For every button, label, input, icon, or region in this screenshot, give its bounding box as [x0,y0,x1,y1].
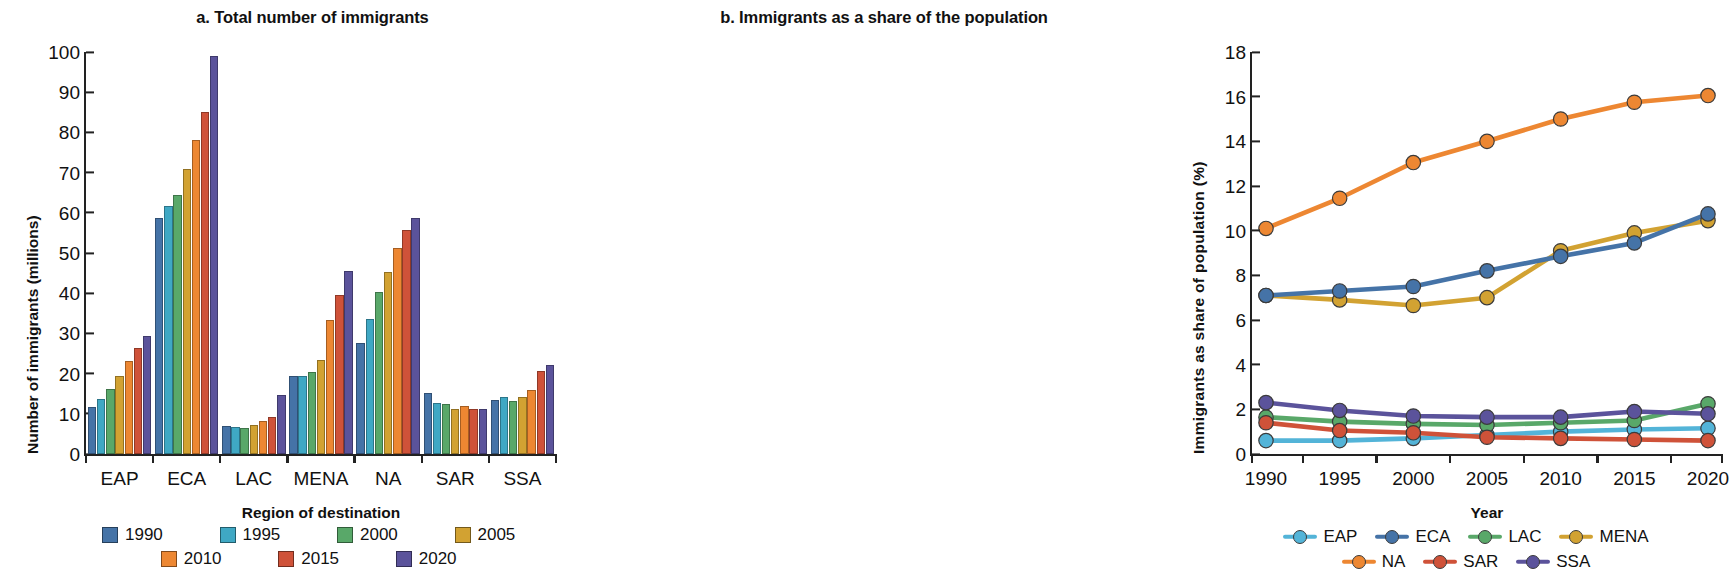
bar-x-tick-mark [421,454,423,463]
line-y-tick-mark [1252,319,1260,321]
bar-ssa-1990 [491,400,499,454]
bar-legend-label: 2015 [301,549,339,569]
bar-group-lac [220,52,287,454]
line-legend-label: EAP [1323,527,1357,547]
bar-y-tick: 0 [69,445,86,464]
line-x-label-2005: 2005 [1466,468,1508,490]
bar-ssa-2015 [537,371,545,454]
line-y-tick-mark [1252,185,1260,187]
line-y-tick-mark [1252,230,1260,232]
bar-legend-item-2015[interactable]: 2015 [260,549,378,569]
line-x-tick-mark [1596,454,1598,463]
bar-legend-item-2010[interactable]: 2010 [143,549,261,569]
legend-dot-icon [1569,530,1583,544]
line-marker-SAR-2015 [1627,432,1641,446]
line-series-svg [1252,52,1722,454]
bar-legend-item-1995[interactable]: 1995 [202,525,320,545]
line-marker-NA-2015 [1627,95,1641,109]
line-y-tick: 14 [1225,132,1252,151]
legend-line-marker-icon [1375,530,1409,544]
bar-na-2010 [393,248,401,454]
legend-dot-icon [1293,530,1307,544]
line-legend-item-LAC[interactable]: LAC [1468,527,1541,547]
bar-group-eap [86,52,153,454]
line-marker-NA-2010 [1553,112,1567,126]
bar-na-2015 [402,230,410,454]
line-marker-MENA-2005 [1480,290,1494,304]
bar-y-tick: 60 [59,203,86,222]
bar-legend-item-2020[interactable]: 2020 [378,549,496,569]
line-legend-item-NA[interactable]: NA [1342,552,1406,572]
bar-x-tick-mark [555,454,557,463]
bar-legend-item-1990[interactable]: 1990 [84,525,202,545]
bar-group-na [355,52,422,454]
line-y-tick-label: 14 [1225,132,1252,151]
bar-y-tick-label: 100 [48,43,86,62]
bar-legend-item-2000[interactable]: 2000 [319,525,437,545]
bar-legend-item-2005[interactable]: 2005 [437,525,555,545]
line-x-tick-mark [1302,454,1304,463]
bar-group-mena [287,52,354,454]
line-marker-NA-2000 [1406,155,1420,169]
line-y-tick-mark [1252,364,1260,366]
bar-sar-2010 [460,406,468,454]
legend-dot-icon [1526,555,1540,569]
line-y-tick: 18 [1225,43,1252,62]
bar-mena-2000 [308,372,316,454]
line-y-tick: 0 [1235,445,1252,464]
line-legend-item-EAP[interactable]: EAP [1283,527,1357,547]
line-y-tick-mark [1252,453,1260,455]
line-y-tick: 10 [1225,221,1252,240]
line-marker-SAR-2010 [1553,431,1567,445]
bar-y-tick-label: 80 [59,123,86,142]
bar-y-tick: 20 [59,364,86,383]
legend-line-marker-icon [1516,555,1550,569]
bar-y-tick: 100 [48,43,86,62]
bar-mena-2005 [317,360,325,454]
bar-eca-1990 [155,218,163,454]
line-y-tick-label: 2 [1235,400,1252,419]
bar-x-tick-mark [219,454,221,463]
bar-y-tick: 30 [59,324,86,343]
bar-na-1995 [366,319,374,454]
line-legend-item-MENA[interactable]: MENA [1559,527,1648,547]
bar-x-tick-mark [85,454,87,463]
line-x-tick-mark [1523,454,1525,463]
bar-y-tick: 40 [59,284,86,303]
line-marker-NA-1995 [1332,191,1346,205]
bar-na-2020 [411,218,419,454]
bar-sar-2015 [469,409,477,454]
bar-x-label-sar: SAR [436,468,475,490]
line-y-tick-mark [1252,96,1260,98]
bar-lac-2005 [250,425,258,454]
bar-y-tick-label: 30 [59,324,86,343]
legend-swatch-icon [278,551,294,567]
line-marker-SAR-2020 [1701,433,1715,447]
legend-swatch-icon [337,527,353,543]
bar-y-tick-label: 40 [59,284,86,303]
bar-y-tick-label: 70 [59,163,86,182]
line-legend-row: NASARSSA [1225,552,1725,572]
bar-mena-2020 [344,271,352,454]
bar-legend-label: 2005 [478,525,516,545]
line-legend-label: NA [1382,552,1406,572]
line-legend-item-SAR[interactable]: SAR [1423,552,1498,572]
bar-eap-1990 [88,407,96,454]
line-y-tick-mark [1252,51,1260,53]
line-marker-SSA-2015 [1627,404,1641,418]
bar-group-eca [153,52,220,454]
line-marker-ECA-1990 [1259,288,1273,302]
line-legend-item-ECA[interactable]: ECA [1375,527,1450,547]
line-y-tick-label: 6 [1235,311,1252,330]
line-legend-item-SSA[interactable]: SSA [1516,552,1590,572]
bar-legend-label: 1990 [125,525,163,545]
line-x-tick-mark [1449,454,1451,463]
line-y-tick-label: 18 [1225,43,1252,62]
line-marker-SSA-1995 [1332,403,1346,417]
line-y-tick: 16 [1225,87,1252,106]
bar-lac-2010 [259,421,267,454]
bar-x-label-ssa: SSA [503,468,541,490]
bar-legend-label: 2010 [184,549,222,569]
bar-y-tick: 80 [59,123,86,142]
line-series-ECA [1266,214,1708,296]
